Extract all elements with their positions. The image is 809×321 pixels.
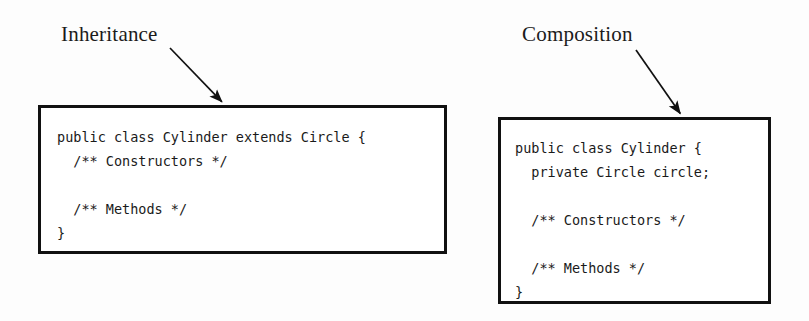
inheritance-code-text: public class Cylinder extends Circle { /… xyxy=(57,125,366,245)
composition-label: Composition xyxy=(522,22,633,46)
figure-canvas: Inheritance Composition public class Cyl… xyxy=(0,0,809,321)
inheritance-arrow-icon xyxy=(170,48,222,102)
inheritance-label: Inheritance xyxy=(61,22,158,46)
composition-arrow-icon xyxy=(636,50,680,114)
composition-code-box: public class Cylinder { private Circle c… xyxy=(498,117,771,304)
composition-code-text: public class Cylinder { private Circle c… xyxy=(515,136,710,304)
inheritance-code-box: public class Cylinder extends Circle { /… xyxy=(38,105,447,254)
